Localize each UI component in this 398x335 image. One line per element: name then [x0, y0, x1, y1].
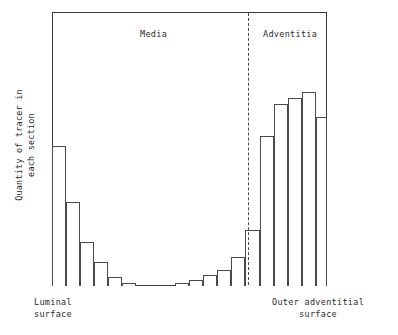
y-axis-title-line2: each section [25, 89, 37, 201]
y-axis-title-line1: Quantity of tracer in [13, 89, 25, 201]
y-axis-title: Quantity of tracer in each section [0, 0, 50, 290]
histogram-bar [288, 98, 302, 286]
histogram-bar [52, 146, 66, 286]
x-axis-label-luminal-line2: surface [34, 308, 72, 320]
x-axis-label-outer-adventitial-surface: Outer adventitial surface [272, 296, 364, 320]
region-label-adventitia: Adventitia [263, 29, 317, 39]
histogram-bar [175, 283, 189, 286]
histogram-bar [108, 277, 122, 286]
histogram-bar [274, 104, 288, 286]
media-adventitia-divider [248, 13, 249, 285]
region-label-media: Media [140, 29, 167, 39]
histogram-bar [80, 242, 94, 286]
histogram-bar [302, 92, 316, 286]
x-axis-label-luminal-surface: Luminal surface [34, 296, 72, 320]
x-axis-label-outer-line2: surface [272, 308, 364, 320]
histogram-bar [260, 136, 274, 286]
histogram-bar [66, 202, 80, 286]
histogram-bar [189, 280, 203, 286]
histogram-bar [122, 283, 136, 286]
histogram-bar [231, 257, 245, 286]
histogram-bar [217, 270, 231, 286]
histogram-bar [203, 275, 217, 286]
histogram-bar [94, 262, 108, 286]
x-axis-label-outer-line1: Outer adventitial [272, 297, 364, 307]
histogram-bar [316, 117, 327, 286]
x-axis-label-luminal-line1: Luminal [34, 297, 72, 307]
histogram-figure: Quantity of tracer in each section Media… [0, 0, 398, 335]
bars-layer [52, 12, 327, 286]
